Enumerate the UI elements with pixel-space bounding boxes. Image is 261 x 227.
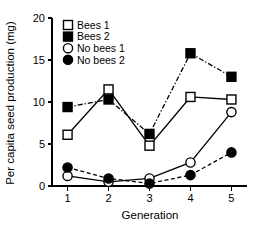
data-point-no-bees-2	[104, 174, 113, 183]
data-point-no-bees-2	[63, 163, 72, 172]
x-axis-title: Generation	[122, 209, 179, 221]
data-point-bees-1	[186, 92, 195, 101]
data-point-bees-2	[227, 72, 236, 81]
y-tick-label: 0	[39, 180, 45, 192]
y-tick-label: 15	[33, 54, 45, 66]
y-tick-label: 10	[33, 96, 45, 108]
data-point-bees-1	[104, 85, 113, 94]
legend: Bees 1Bees 2No bees 1No bees 2	[63, 19, 125, 66]
chart-svg: 0510152012345 Bees 1Bees 2No bees 1No be…	[0, 0, 261, 227]
x-tick-label: 1	[65, 192, 71, 204]
data-point-bees-2	[145, 129, 154, 138]
data-point-bees-2	[186, 49, 195, 58]
data-point-no-bees-1	[227, 107, 236, 116]
x-tick-label: 5	[228, 192, 234, 204]
data-point-bees-2	[104, 95, 113, 104]
legend-label-no-bees-1: No bees 1	[77, 42, 125, 54]
legend-marker-bees-1	[64, 21, 73, 30]
data-point-no-bees-1	[186, 158, 195, 167]
data-point-bees-1	[63, 130, 72, 139]
y-tick-label: 5	[39, 138, 45, 150]
y-axis-title: Per capita seed production (mg)	[4, 21, 16, 185]
legend-label-bees-2: Bees 2	[77, 30, 110, 42]
data-point-no-bees-2	[145, 179, 154, 188]
legend-label-bees-1: Bees 1	[77, 19, 110, 31]
chart-container: 0510152012345 Bees 1Bees 2No bees 1No be…	[0, 0, 261, 227]
data-point-no-bees-2	[186, 170, 195, 179]
series-lines	[68, 53, 232, 183]
legend-marker-no-bees-1	[63, 44, 72, 53]
legend-marker-bees-2	[64, 32, 73, 41]
axis-ticks	[48, 18, 232, 191]
data-point-bees-2	[63, 103, 72, 112]
y-tick-label: 20	[33, 12, 45, 24]
data-point-no-bees-2	[227, 148, 236, 157]
legend-label-no-bees-2: No bees 2	[77, 54, 125, 66]
legend-marker-no-bees-2	[63, 55, 72, 64]
series-markers	[63, 49, 236, 188]
x-tick-label: 2	[105, 192, 111, 204]
data-point-bees-1	[227, 95, 236, 104]
x-tick-label: 3	[146, 192, 152, 204]
data-point-bees-1	[145, 141, 154, 150]
x-tick-label: 4	[187, 192, 193, 204]
